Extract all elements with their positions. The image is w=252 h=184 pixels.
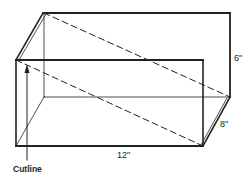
cutline-label: Cutline — [13, 164, 42, 174]
floor-left-slant — [16, 97, 44, 146]
box-diagram: 6" 8" 12" Cutline — [0, 0, 252, 184]
upper-cut-diagonal — [44, 13, 230, 97]
lower-cut-diagonal — [16, 60, 203, 146]
left-top-slant-inner — [19, 14, 46, 60]
length-label: 12" — [117, 150, 130, 160]
left-top-slant — [16, 13, 43, 60]
depth-label: 8" — [220, 119, 228, 129]
height-label: 6" — [234, 53, 242, 63]
